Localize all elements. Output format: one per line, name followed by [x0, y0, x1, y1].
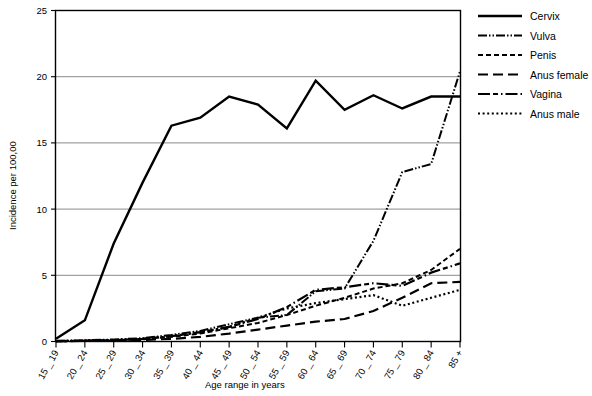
- x-tick-label: 35 _ 39: [151, 348, 176, 381]
- incidence-line-chart: 0510152025 15 _ 1920 _ 2425 _ 2930 _ 343…: [0, 0, 592, 396]
- x-tick-label: 20 _ 24: [64, 348, 89, 381]
- legend-item[interactable]: Cervix: [478, 10, 561, 22]
- legend-label: Penis: [530, 49, 556, 61]
- x-tick-label: 75 _ 79: [382, 348, 407, 381]
- legend-label: Vulva: [530, 30, 556, 42]
- chart-container: 0510152025 15 _ 1920 _ 2425 _ 2930 _ 343…: [0, 0, 592, 396]
- x-tick-label: 85 +: [446, 348, 465, 370]
- x-axis-ticks: [56, 342, 460, 348]
- x-tick-label: 40 _ 44: [180, 348, 205, 381]
- series-line-anus-male: [56, 290, 460, 341]
- legend-item[interactable]: Anus female: [478, 69, 589, 81]
- legend: CervixVulvaPenisAnus femaleVaginaAnus ma…: [478, 10, 589, 120]
- legend-item[interactable]: Anus male: [478, 108, 580, 120]
- series-line-penis: [56, 249, 460, 341]
- legend-item[interactable]: Vulva: [478, 30, 556, 42]
- x-axis-tick-labels: 15 _ 1920 _ 2425 _ 2930 _ 3435 _ 3940 _ …: [35, 348, 465, 381]
- legend-label: Anus female: [530, 69, 589, 81]
- data-series: [56, 71, 460, 341]
- y-axis-ticks: 0510152025: [36, 5, 56, 347]
- x-tick-label: 25 _ 29: [93, 348, 118, 381]
- legend-label: Cervix: [530, 10, 561, 22]
- x-tick-label: 15 _ 19: [35, 348, 60, 381]
- x-tick-label: 30 _ 34: [122, 348, 147, 381]
- y-tick-label: 15: [36, 137, 47, 148]
- x-tick-label: 50 _ 54: [237, 348, 262, 381]
- series-line-vulva: [56, 71, 460, 340]
- legend-label: Anus male: [530, 108, 580, 120]
- x-tick-label: 65 _ 69: [324, 348, 349, 381]
- x-tick-label: 70 _ 74: [353, 348, 378, 381]
- legend-label: Vagina: [530, 88, 562, 100]
- y-tick-label: 25: [36, 5, 47, 16]
- y-tick-label: 0: [42, 336, 47, 347]
- x-tick-label: 60 _ 64: [295, 348, 320, 381]
- y-tick-label: 20: [36, 71, 47, 82]
- x-tick-label: 55 _ 59: [266, 348, 291, 381]
- y-axis-title: Incidence per 100,00: [7, 141, 18, 230]
- y-tick-label: 10: [36, 204, 47, 215]
- x-tick-label: 80 _ 84: [410, 348, 435, 381]
- legend-item[interactable]: Vagina: [478, 88, 562, 100]
- x-tick-label: 45 _ 49: [208, 348, 233, 381]
- y-tick-label: 5: [42, 270, 47, 281]
- series-line-anus-female: [56, 282, 460, 341]
- legend-item[interactable]: Penis: [478, 49, 556, 61]
- x-axis-title: Age range in years: [205, 379, 285, 390]
